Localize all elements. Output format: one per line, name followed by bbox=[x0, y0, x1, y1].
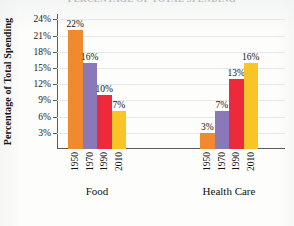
bar-fill bbox=[229, 79, 244, 149]
bar: 22%1950 bbox=[68, 30, 83, 149]
y-axis-tick bbox=[53, 36, 57, 37]
y-axis-tick bbox=[53, 52, 57, 53]
y-axis-tick bbox=[53, 84, 57, 85]
bar-fill bbox=[215, 111, 230, 149]
y-axis-tick bbox=[53, 68, 57, 69]
y-axis-tick-label: 21% bbox=[34, 31, 51, 41]
y-axis-tick-label: 12% bbox=[34, 79, 51, 89]
y-axis-title: Percentage of Total Spending bbox=[1, 14, 14, 149]
y-axis-tick-label: 3% bbox=[38, 128, 51, 138]
y-axis-tick-label: 9% bbox=[38, 95, 51, 105]
bar-value-label: 7% bbox=[215, 100, 228, 110]
x-axis-year-label: 1970 bbox=[83, 152, 98, 180]
bar: 7%1970 bbox=[215, 111, 230, 149]
x-axis-year-label-text: 1990 bbox=[231, 152, 241, 171]
x-axis-year-label: 1970 bbox=[215, 152, 230, 180]
y-axis-tick-label: 15% bbox=[34, 63, 51, 73]
x-axis-group-label: Health Care bbox=[203, 185, 256, 197]
chart-figure: PERCENTAGE OF TOTAL SPENDING Percentage … bbox=[0, 0, 294, 226]
y-axis-title-text: Percentage of Total Spending bbox=[2, 18, 13, 145]
cutoff-title: PERCENTAGE OF TOTAL SPENDING bbox=[52, 0, 252, 6]
x-axis-year-label-text: 1990 bbox=[99, 152, 109, 171]
x-axis-year-label: 2010 bbox=[244, 152, 259, 180]
bar-value-label: 22% bbox=[67, 19, 84, 29]
bar: 10%1990 bbox=[97, 95, 112, 149]
bar-value-label: 16% bbox=[81, 52, 98, 62]
bar: 16%2010 bbox=[244, 63, 259, 149]
bar-value-label: 13% bbox=[228, 68, 245, 78]
bar-fill bbox=[112, 111, 127, 149]
x-axis-year-label: 1990 bbox=[229, 152, 244, 180]
bar-value-label: 7% bbox=[112, 100, 125, 110]
x-axis-year-label-text: 1970 bbox=[217, 152, 227, 171]
y-axis-tick bbox=[53, 133, 57, 134]
x-axis-year-label: 2010 bbox=[112, 152, 127, 180]
x-axis-year-label-text: 1950 bbox=[202, 152, 212, 171]
bar: 13%1990 bbox=[229, 79, 244, 149]
x-axis-year-label-text: 1950 bbox=[70, 152, 80, 171]
bar: 7%2010 bbox=[112, 111, 127, 149]
bar-fill bbox=[83, 63, 98, 149]
bar: 3%1950 bbox=[200, 133, 215, 149]
y-axis-tick-label: 6% bbox=[38, 112, 51, 122]
y-axis-tick-label: 18% bbox=[34, 47, 51, 57]
bar-fill bbox=[68, 30, 83, 149]
x-axis-year-label: 1950 bbox=[200, 152, 215, 180]
y-axis-tick bbox=[53, 19, 57, 20]
bar-fill bbox=[200, 133, 215, 149]
x-axis-year-label-text: 2010 bbox=[114, 152, 124, 171]
y-axis-tick-label: 24% bbox=[34, 14, 51, 24]
x-axis-year-label: 1950 bbox=[68, 152, 83, 180]
plot-area: 3%6%9%12%15%18%21%24% 22%195016%197010%1… bbox=[57, 14, 285, 149]
bar: 16%1970 bbox=[83, 63, 98, 149]
gridline bbox=[57, 36, 285, 37]
y-axis-tick bbox=[53, 117, 57, 118]
y-axis-tick bbox=[53, 100, 57, 101]
x-axis-year-label: 1990 bbox=[97, 152, 112, 180]
bar-value-label: 16% bbox=[242, 52, 259, 62]
gridline bbox=[57, 19, 285, 20]
bar-value-label: 3% bbox=[201, 122, 214, 132]
x-axis-year-label-text: 1970 bbox=[85, 152, 95, 171]
bar-fill bbox=[244, 63, 259, 149]
bar-fill bbox=[97, 95, 112, 149]
x-axis-year-label-text: 2010 bbox=[246, 152, 256, 171]
x-axis-group-label: Food bbox=[86, 185, 109, 197]
cutoff-title-text: PERCENTAGE OF TOTAL SPENDING bbox=[52, 0, 252, 4]
bar-value-label: 10% bbox=[96, 84, 113, 94]
